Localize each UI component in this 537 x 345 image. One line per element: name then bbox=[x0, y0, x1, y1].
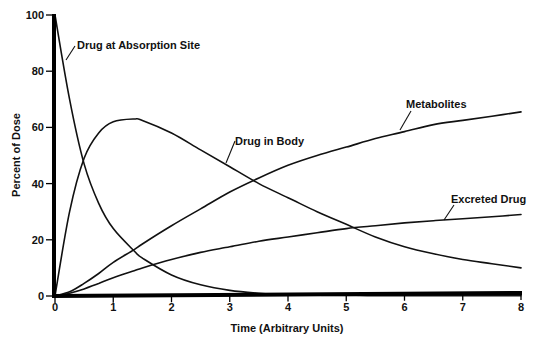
chart: 020406080100012345678 Time (Arbitrary Un… bbox=[0, 0, 537, 345]
excreted-leader bbox=[444, 205, 454, 220]
curves bbox=[55, 15, 521, 296]
label-excreted: Excreted Drug bbox=[451, 193, 526, 205]
y-tick-label: 40 bbox=[32, 178, 44, 190]
y-tick-label: 0 bbox=[38, 290, 44, 302]
x-tick-label: 8 bbox=[518, 301, 524, 313]
line-chart: 020406080100012345678 Time (Arbitrary Un… bbox=[0, 0, 537, 345]
x-tick-label: 6 bbox=[401, 301, 407, 313]
tick-labels: 020406080100012345678 bbox=[26, 9, 524, 313]
x-tick-label: 7 bbox=[460, 301, 466, 313]
label-metabolites: Metabolites bbox=[406, 98, 467, 110]
x-tick-label: 5 bbox=[343, 301, 349, 313]
metabolites-leader bbox=[400, 111, 411, 130]
y-axis-title: Percent of Dose bbox=[10, 113, 22, 197]
y-tick-label: 60 bbox=[32, 121, 44, 133]
y-tick-label: 100 bbox=[26, 9, 44, 21]
absorption-leader bbox=[66, 46, 75, 60]
x-axis-title: Time (Arbitrary Units) bbox=[231, 322, 344, 334]
y-tick-label: 80 bbox=[32, 65, 44, 77]
body-leader bbox=[226, 141, 235, 163]
x-tick-label: 2 bbox=[168, 301, 174, 313]
x-tick-label: 0 bbox=[52, 301, 58, 313]
label-body: Drug in Body bbox=[235, 135, 305, 147]
x-tick-label: 3 bbox=[227, 301, 233, 313]
x-tick-label: 1 bbox=[110, 301, 116, 313]
x-tick-label: 4 bbox=[285, 301, 292, 313]
label-absorption: Drug at Absorption Site bbox=[77, 39, 200, 51]
y-tick-label: 20 bbox=[32, 234, 44, 246]
absorption-curve bbox=[55, 15, 521, 296]
